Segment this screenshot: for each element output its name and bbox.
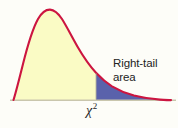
x-axis-label: χ2 xyxy=(86,104,97,118)
chi-square-distribution-figure: Right-tail area χ2 xyxy=(0,0,178,128)
right-tail-area-label-line2: area xyxy=(113,71,157,85)
right-tail-area-label-line1: Right-tail xyxy=(113,57,157,71)
chi-symbol: χ xyxy=(86,103,92,118)
right-tail-area-label: Right-tail area xyxy=(113,57,157,84)
chi-exponent: 2 xyxy=(93,101,98,111)
